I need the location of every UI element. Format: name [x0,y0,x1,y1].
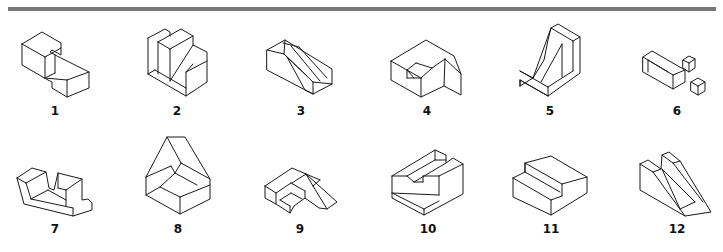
figure-label-6: 6 [673,104,681,118]
isometric-object-6 [643,51,705,95]
figure-label-2: 2 [173,104,181,118]
isometric-object-11 [513,156,587,215]
figure-label-12: 12 [669,222,686,236]
isometric-object-5 [520,24,580,96]
isometric-object-9 [265,168,337,213]
figure-label-10: 10 [420,222,437,236]
isometric-object-4 [391,40,461,97]
figure-label-4: 4 [423,104,431,118]
isometric-object-7 [17,168,92,216]
isometric-object-3 [267,40,332,94]
figure-label-1: 1 [51,104,59,118]
isometric-figures [0,0,723,252]
figure-label-5: 5 [546,104,554,118]
isometric-object-8 [146,137,210,214]
isometric-object-2 [148,29,207,96]
isometric-object-12 [640,152,711,216]
figure-label-7: 7 [51,222,59,236]
figure-label-8: 8 [174,222,182,236]
figure-label-3: 3 [297,104,305,118]
figure-label-11: 11 [543,222,560,236]
isometric-object-1 [22,32,89,97]
figure-label-9: 9 [296,222,304,236]
isometric-object-10 [392,150,463,215]
